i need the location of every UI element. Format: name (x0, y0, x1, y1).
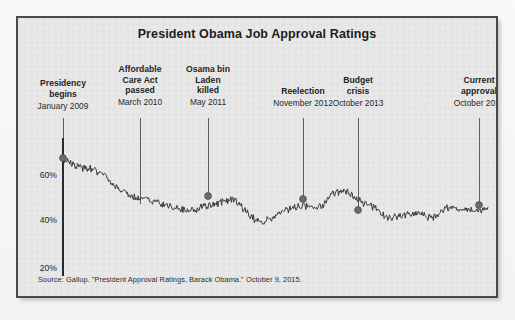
approval-line-plot (18, 18, 498, 298)
chart-frame: President Obama Job Approval Ratings Pre… (16, 16, 498, 298)
approval-rating-line (63, 158, 488, 224)
event-marker-osama-bin-laden-killed (205, 193, 212, 200)
event-marker-current-approval (476, 202, 483, 209)
event-marker-budget-crisis (355, 207, 362, 214)
source-note: Source: Gallup. "President Approval Rati… (38, 275, 302, 284)
event-marker-presidency-begins (60, 155, 67, 162)
figure-page: President Obama Job Approval Ratings Pre… (0, 0, 515, 320)
event-marker-reelection (300, 196, 307, 203)
